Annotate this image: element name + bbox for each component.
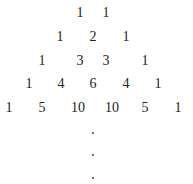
triangle-number: 5: [142, 101, 149, 115]
triangle-number: 10: [105, 101, 119, 115]
triangle-number: 1: [155, 77, 162, 91]
triangle-number: 1: [123, 30, 130, 44]
triangle-number: 1: [57, 30, 64, 44]
triangle-number: 3: [103, 54, 110, 68]
triangle-number: 1: [26, 77, 33, 91]
triangle-number: 4: [123, 77, 130, 91]
triangle-number: 1: [103, 6, 110, 20]
triangle-number: 1: [142, 54, 149, 68]
pascal-triangle-diagram: 1112113311464115101051: [0, 0, 193, 184]
triangle-number: 1: [39, 54, 46, 68]
triangle-number: 1: [175, 101, 182, 115]
continuation-dot: [92, 132, 94, 134]
triangle-number: 3: [77, 54, 84, 68]
triangle-number: 1: [77, 6, 84, 20]
triangle-number: 10: [71, 101, 85, 115]
continuation-dot: [92, 154, 94, 156]
continuation-dot: [92, 177, 94, 179]
triangle-number: 2: [90, 30, 97, 44]
triangle-number: 5: [39, 101, 46, 115]
triangle-number: 6: [90, 77, 97, 91]
triangle-number: 4: [58, 77, 65, 91]
triangle-number: 1: [6, 101, 13, 115]
